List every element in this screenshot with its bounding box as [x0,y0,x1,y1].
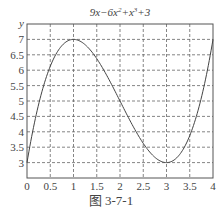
y-tick-label: 4.5 [10,110,24,122]
x-tick-label: 1.5 [90,180,104,190]
x-tick-label: 4 [210,180,216,190]
x-tick-label: 2.5 [136,180,150,190]
x-tick-label: 2 [117,180,123,190]
x-tick-label: 3.5 [183,180,197,190]
y-tick-label: 5 [19,95,25,107]
y-tick-label: 6 [19,64,25,76]
chart: 9x−6x2+x3+3 33.544.555.566.57 00.511.522… [0,0,222,190]
figure-caption: 图 3-7-1 [0,190,222,209]
chart-title: 9x−6x2+x3+3 [90,6,151,18]
y-tick-label: 3.5 [10,141,24,153]
x-tick-label: 0.5 [43,180,57,190]
y-tick-label: 7 [19,33,25,45]
y-axis-label: y [18,17,24,29]
y-tick-label: 5.5 [10,80,24,92]
x-tick-label: 3 [164,180,170,190]
y-axis: 33.544.555.566.57 [10,33,24,168]
y-tick-label: 3 [19,157,25,169]
x-tick-label: 1 [71,180,77,190]
x-tick-label: 0 [24,180,30,190]
y-tick-label: 6.5 [10,49,24,61]
x-axis: 00.511.522.533.54 [24,180,216,190]
y-tick-label: 4 [19,126,25,138]
